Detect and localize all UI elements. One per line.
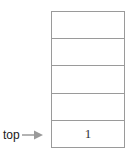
top-pointer: top (3, 126, 44, 143)
stack-cell (52, 39, 124, 66)
stack-cell (52, 94, 124, 121)
top-pointer-label: top (3, 129, 20, 141)
stack-cell (52, 66, 124, 93)
stack-cell-value: 1 (85, 127, 92, 140)
stack-container: 1 (51, 11, 125, 148)
stack-cell-top: 1 (52, 121, 124, 147)
arrow-right-icon (22, 129, 44, 141)
stack-cell (52, 12, 124, 39)
stack-diagram-canvas: 1 top (0, 0, 134, 158)
